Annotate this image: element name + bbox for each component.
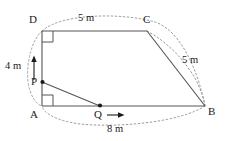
right-angle-marker-d — [42, 31, 53, 42]
dotted-oval-bottom-arc — [42, 106, 205, 125]
point-dot-q — [98, 103, 102, 107]
point-dot-p — [40, 80, 44, 84]
dimension-label-pd: 4 m — [5, 61, 21, 72]
trapezoid-sides-group — [42, 31, 205, 106]
dimension-label-cb: 5 m — [182, 55, 198, 66]
vertex-label-a: A — [30, 109, 38, 120]
dotted-outline-group — [28, 16, 205, 125]
dotted-oval-left-arc — [28, 31, 42, 106]
vertex-label-c: C — [143, 14, 150, 25]
arrow-right-q — [107, 112, 125, 117]
right-angle-marker-a — [42, 95, 53, 106]
dimension-label-dc: 5 m — [78, 13, 94, 24]
vertex-label-b: B — [208, 106, 215, 117]
geometry-diagram: D C A B P Q 5 m 5 m 8 m 4 m — [0, 0, 227, 141]
segment-pq — [42, 82, 100, 106]
dimension-label-ab: 8 m — [107, 124, 123, 135]
point-label-q: Q — [94, 109, 102, 120]
vertex-label-d: D — [29, 14, 37, 25]
segment-cb — [147, 31, 205, 106]
point-label-p: P — [31, 76, 37, 87]
